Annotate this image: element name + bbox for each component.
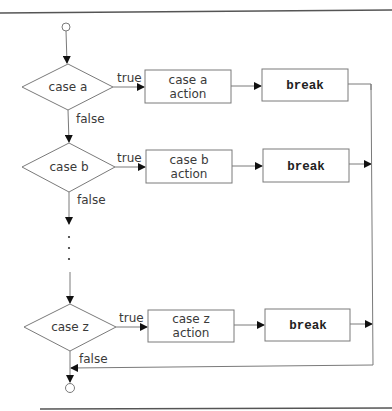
action-z-line1: case z bbox=[172, 312, 210, 326]
false-label-b: false bbox=[77, 193, 106, 207]
action-b-line2: action bbox=[171, 167, 208, 181]
decision-case-a-label: case a bbox=[49, 80, 88, 94]
false-label-a: false bbox=[76, 112, 105, 126]
action-a-line2: action bbox=[170, 87, 207, 101]
start-node bbox=[62, 23, 70, 31]
decision-case-b-label: case b bbox=[49, 160, 88, 174]
end-node bbox=[66, 384, 75, 393]
bottom-border bbox=[40, 408, 392, 409]
merge-return-edge bbox=[71, 365, 373, 368]
case-b-group: case b true case b action break false bbox=[22, 143, 371, 224]
action-b-line1: case b bbox=[169, 153, 208, 167]
switch-flowchart: case a true case a action break false ca… bbox=[0, 0, 392, 411]
case-a-group: case a true case a action break false bbox=[22, 64, 371, 142]
true-label-a: true bbox=[117, 71, 142, 85]
break-label-z: break bbox=[289, 319, 327, 333]
break-label-b: break bbox=[287, 160, 325, 174]
action-a-line1: case a bbox=[169, 73, 208, 87]
flowchart-canvas: case a true case a action break false ca… bbox=[0, 0, 392, 411]
case-z-group: case z true case z action break false bbox=[24, 304, 372, 366]
break-exit-edge-a bbox=[348, 84, 371, 90]
true-label-b: true bbox=[117, 151, 142, 165]
false-edge-a bbox=[68, 110, 69, 142]
false-label-z: false bbox=[79, 352, 108, 366]
action-z-line2: action bbox=[173, 326, 210, 340]
ellipsis-dots bbox=[68, 236, 70, 260]
break-merge-line bbox=[371, 84, 373, 365]
top-border bbox=[0, 10, 392, 13]
decision-case-z-label: case z bbox=[51, 320, 89, 334]
true-label-z: true bbox=[119, 311, 144, 325]
start-edge bbox=[66, 31, 67, 63]
break-label-a: break bbox=[286, 79, 324, 93]
